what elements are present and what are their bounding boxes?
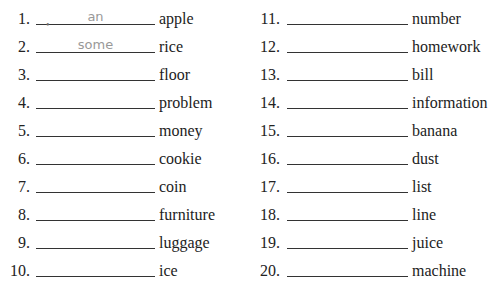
answer-text: an <box>36 5 155 29</box>
answer-blank[interactable] <box>36 136 155 137</box>
noun-word: dust <box>412 147 439 171</box>
item-number: 2. <box>0 35 30 59</box>
noun-word: problem <box>159 91 212 115</box>
answer-blank[interactable] <box>36 248 155 249</box>
exercise-item: 8.furniture <box>0 203 248 227</box>
exercise-item: 7.coin <box>0 175 248 199</box>
answer-blank[interactable] <box>287 24 408 25</box>
noun-word: coin <box>159 175 187 199</box>
exercise-item: 14.information <box>250 91 498 115</box>
exercise-item: 4.problem <box>0 91 248 115</box>
item-number: 3. <box>0 63 30 87</box>
item-number: 4. <box>0 91 30 115</box>
noun-word: line <box>412 203 436 227</box>
answer-blank[interactable] <box>36 80 155 81</box>
exercise-item: 16.dust <box>250 147 498 171</box>
noun-word: ice <box>159 259 178 283</box>
answer-blank[interactable] <box>287 164 408 165</box>
answer-blank[interactable] <box>287 108 408 109</box>
answer-blank[interactable] <box>36 192 155 193</box>
noun-word: bill <box>412 63 433 87</box>
noun-word: furniture <box>159 203 215 227</box>
answer-blank[interactable] <box>287 52 408 53</box>
exercise-item: 19.juice <box>250 231 498 255</box>
noun-word: machine <box>412 259 466 283</box>
item-number: 1. <box>0 7 30 31</box>
answer-blank[interactable] <box>36 276 155 277</box>
item-number: 16. <box>250 147 280 171</box>
exercise-item: 15.banana <box>250 119 498 143</box>
item-number: 18. <box>250 203 280 227</box>
item-number: 12. <box>250 35 280 59</box>
exercise-item: 9.luggage <box>0 231 248 255</box>
noun-word: homework <box>412 35 480 59</box>
item-number: 15. <box>250 119 280 143</box>
item-number: 19. <box>250 231 280 255</box>
item-number: 11. <box>250 7 280 31</box>
item-number: 13. <box>250 63 280 87</box>
item-number: 6. <box>0 147 30 171</box>
answer-blank[interactable] <box>287 136 408 137</box>
noun-word: number <box>412 7 461 31</box>
noun-word: information <box>412 91 488 115</box>
noun-word: rice <box>159 35 183 59</box>
answer-text: some <box>36 33 155 57</box>
item-number: 8. <box>0 203 30 227</box>
noun-word: banana <box>412 119 457 143</box>
item-number: 9. <box>0 231 30 255</box>
answer-blank[interactable] <box>287 220 408 221</box>
noun-word: floor <box>159 63 190 87</box>
noun-word: cookie <box>159 147 202 171</box>
exercise-item: 3.floor <box>0 63 248 87</box>
item-number: 10. <box>0 259 30 283</box>
exercise-item: 5.money <box>0 119 248 143</box>
exercise-item: 13.bill <box>250 63 498 87</box>
exercise-item: 18.line <box>250 203 498 227</box>
exercise-item: 1.anapple• <box>0 7 248 31</box>
answer-blank[interactable] <box>36 220 155 221</box>
exercise-item: 20.machine <box>250 259 498 283</box>
noun-word: juice <box>412 231 443 255</box>
answer-blank[interactable] <box>36 108 155 109</box>
noun-word: luggage <box>159 231 210 255</box>
item-number: 17. <box>250 175 280 199</box>
noun-word: apple <box>159 7 194 31</box>
exercise-item: 6.cookie <box>0 147 248 171</box>
item-number: 14. <box>250 91 280 115</box>
item-number: 5. <box>0 119 30 143</box>
answer-blank[interactable] <box>287 276 408 277</box>
exercise-item: 12.homework <box>250 35 498 59</box>
item-number: 7. <box>0 175 30 199</box>
answer-blank[interactable] <box>36 164 155 165</box>
item-number: 20. <box>250 259 280 283</box>
exercise-item: 17.list <box>250 175 498 199</box>
answer-blank[interactable] <box>287 80 408 81</box>
answer-blank[interactable] <box>287 192 408 193</box>
exercise-item: 10.ice <box>0 259 248 283</box>
exercise-item: 2.somerice <box>0 35 248 59</box>
exercise-item: 11.number <box>250 7 498 31</box>
noun-word: list <box>412 175 432 199</box>
answer-blank[interactable] <box>287 248 408 249</box>
noun-word: money <box>159 119 203 143</box>
